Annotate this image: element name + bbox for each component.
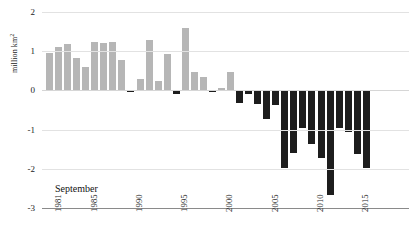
bar-1991[interactable] (137, 79, 144, 91)
bar-2011[interactable] (318, 90, 325, 157)
bar-1997[interactable] (191, 72, 198, 90)
bar-1989[interactable] (118, 60, 125, 90)
x-tick-label-2005: 2005 (270, 194, 280, 212)
gridline-2 (42, 12, 409, 13)
x-tick-label-2000: 2000 (224, 194, 234, 212)
bar-2014[interactable] (345, 90, 352, 131)
bar-2006[interactable] (272, 90, 279, 105)
x-tick-label-1995: 1995 (179, 194, 189, 212)
bar-1986[interactable] (91, 42, 98, 91)
x-tick-label-2015: 2015 (360, 194, 370, 212)
y-tick-label-neg2: -2 (28, 164, 36, 174)
bar-1981[interactable] (46, 53, 53, 90)
sea-ice-anomaly-bar-chart: million km2 210-1-2-3 198119851990199520… (0, 0, 415, 246)
gridline-neg1 (42, 130, 409, 131)
bar-2010[interactable] (308, 90, 315, 144)
bar-2005[interactable] (263, 90, 270, 119)
bar-2013[interactable] (336, 90, 343, 127)
bar-2001[interactable] (227, 72, 234, 90)
x-tick-label-2010: 2010 (315, 194, 325, 212)
y-tick-label-neg1: -1 (28, 125, 36, 135)
bar-1985[interactable] (82, 67, 89, 91)
y-tick-label-2: 2 (31, 7, 36, 17)
bar-series (42, 12, 409, 208)
x-tick-label-1990: 1990 (134, 194, 144, 212)
series-annotation-september: September (55, 183, 98, 194)
x-axis-ticks: 19811985199019952000200520102015 (42, 210, 409, 246)
x-tick-label-1985: 1985 (89, 194, 99, 212)
gridline-0 (42, 90, 409, 91)
bar-2004[interactable] (254, 90, 261, 104)
x-tick-label-1981: 1981 (53, 194, 63, 212)
y-axis-label: million km2 (9, 13, 20, 93)
bar-1982[interactable] (55, 47, 62, 90)
y-tick-label-0: 0 (31, 85, 36, 95)
bar-1993[interactable] (155, 81, 162, 91)
bar-2015[interactable] (354, 90, 361, 154)
bar-1984[interactable] (73, 58, 80, 90)
gridline-1 (42, 51, 409, 52)
bar-2008[interactable] (290, 90, 297, 153)
bar-1988[interactable] (109, 42, 116, 91)
bar-1996[interactable] (182, 28, 189, 91)
bar-2002[interactable] (236, 90, 243, 103)
bar-1992[interactable] (146, 40, 153, 91)
gridline-neg2 (42, 169, 409, 170)
y-axis-label-exponent: 2 (9, 34, 15, 37)
y-tick-label-neg3: -3 (28, 203, 36, 213)
bar-2012[interactable] (327, 90, 334, 195)
bar-2009[interactable] (299, 90, 306, 127)
y-tick-label-1: 1 (31, 46, 36, 56)
y-axis-label-text: million km (10, 37, 19, 73)
bar-1994[interactable] (164, 54, 171, 91)
bar-1998[interactable] (200, 77, 207, 91)
plot-area: 210-1-2-3 (42, 12, 409, 208)
